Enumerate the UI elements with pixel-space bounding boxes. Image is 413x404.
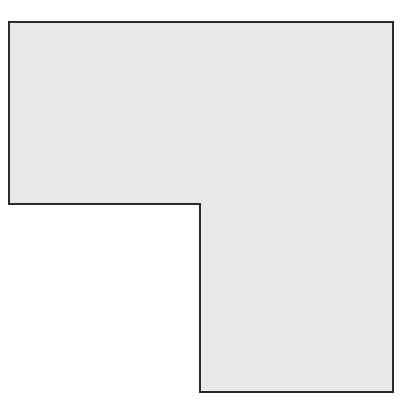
- l-shape-polygon: [9, 22, 393, 392]
- l-shape-diagram: [0, 0, 413, 404]
